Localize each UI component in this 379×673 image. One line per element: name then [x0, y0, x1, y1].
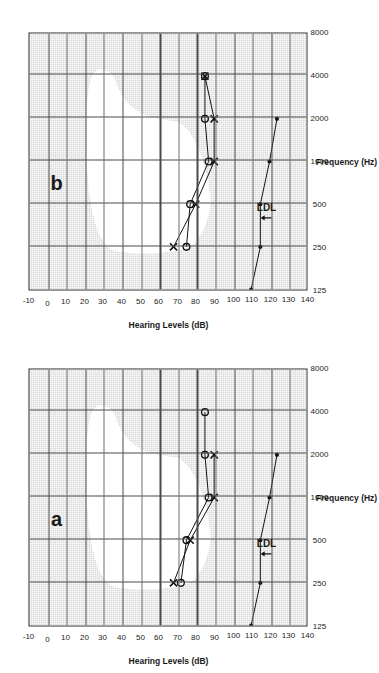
y-axis-title-a: Hearing Levels (dB) [128, 655, 208, 665]
x-tick-label: 8000 [310, 28, 328, 36]
y-tick-label: 50 [135, 298, 144, 306]
y-axis-title-b: Hearing Levels (dB) [128, 319, 208, 329]
gridline-horizontal [234, 33, 235, 289]
y-tick-label: 80 [191, 298, 200, 306]
gridline-vertical [29, 159, 306, 160]
gridline-horizontal [141, 33, 142, 289]
x-tick-label: 2000 [310, 114, 328, 122]
gridline-horizontal [289, 369, 290, 625]
y-tick-label: 90 [210, 634, 219, 642]
gridline-horizontal [196, 369, 197, 625]
y-tick-label: 130 [282, 631, 295, 639]
gridline-horizontal [85, 369, 86, 625]
y-tick-label: 20 [79, 634, 88, 642]
audiogram-figure: a LDL Frequency (Hz) Hearing Levels (dB)… [0, 0, 379, 673]
y-tick-label: 40 [117, 298, 126, 306]
gridline-vertical [29, 409, 306, 410]
gridline-horizontal [215, 33, 216, 289]
plot-overlay-b [29, 33, 306, 289]
gridline-horizontal [234, 369, 235, 625]
x-tick-label: 1000 [310, 493, 328, 501]
y-tick-label: 140 [300, 295, 313, 303]
y-tick-label: 30 [98, 298, 107, 306]
ldl-annotation-a: LDL [256, 537, 275, 548]
x-tick-label: 125 [312, 286, 325, 294]
panel-container: a LDL Frequency (Hz) Hearing Levels (dB)… [0, 0, 379, 673]
gridline-horizontal [103, 369, 104, 625]
y-tick-label: 120 [263, 295, 276, 303]
gridline-horizontal [66, 369, 67, 625]
gridline-horizontal [289, 33, 290, 289]
gridline-horizontal [178, 33, 179, 289]
y-tick-label: 10 [61, 634, 70, 642]
y-tick-label: 130 [282, 295, 295, 303]
gridline-vertical [29, 245, 306, 246]
y-tick-label: 50 [135, 634, 144, 642]
gridline-horizontal [85, 33, 86, 289]
plot-area-b [28, 32, 307, 290]
gridline-horizontal [196, 33, 197, 289]
gridline-horizontal [141, 369, 142, 625]
gridline-horizontal [159, 33, 160, 289]
y-tick-label: 140 [300, 631, 313, 639]
plot-area-a [28, 368, 307, 626]
ldl-arrow-icon [260, 215, 271, 220]
y-tick-label: 60 [154, 634, 163, 642]
x-tick-label: 1000 [310, 157, 328, 165]
y-tick-label: 100 [226, 295, 239, 303]
gridline-horizontal [271, 369, 272, 625]
y-tick-label: 110 [245, 632, 258, 640]
panel-label-b: b [50, 172, 62, 195]
x-tick-label: 125 [312, 622, 325, 630]
gridline-vertical [29, 116, 306, 117]
panel-a: a LDL Frequency (Hz) Hearing Levels (dB)… [0, 337, 379, 673]
y-tick-label: 30 [98, 634, 107, 642]
gridline-horizontal [178, 369, 179, 625]
gridline-horizontal [122, 369, 123, 625]
gridline-horizontal [103, 33, 104, 289]
gridline-horizontal [48, 369, 49, 625]
x-tick-label: 8000 [310, 364, 328, 372]
panel-label-a: a [50, 508, 61, 531]
plot-overlay-a [29, 369, 306, 625]
gridline-horizontal [252, 33, 253, 289]
panel-b: b LDL Frequency (Hz) Hearing Levels (dB)… [0, 1, 379, 337]
gridline-horizontal [271, 33, 272, 289]
y-tick-label: -10 [22, 296, 34, 304]
series-line [180, 412, 208, 583]
x-tick-label: 4000 [310, 71, 328, 79]
x-tick-label: 500 [312, 536, 325, 544]
y-tick-label: 40 [117, 634, 126, 642]
gridline-horizontal [122, 33, 123, 289]
x-tick-label: 500 [312, 200, 325, 208]
gridline-horizontal [66, 33, 67, 289]
gridline-vertical [29, 73, 306, 74]
y-tick-label: 90 [210, 298, 219, 306]
y-tick-label: 10 [61, 298, 70, 306]
gridline-horizontal [215, 369, 216, 625]
gridline-horizontal [252, 369, 253, 625]
y-tick-label: 120 [263, 631, 276, 639]
y-tick-label: 80 [191, 634, 200, 642]
y-tick-label: 0 [44, 636, 48, 644]
y-tick-label: 70 [172, 634, 181, 642]
x-tick-label: 4000 [310, 407, 328, 415]
y-tick-label: 110 [245, 296, 258, 304]
gridline-vertical [29, 495, 306, 496]
y-tick-label: -10 [22, 632, 34, 640]
gridline-horizontal [48, 33, 49, 289]
x-tick-label: 250 [312, 243, 325, 251]
y-tick-label: 70 [172, 298, 181, 306]
gridline-vertical [29, 452, 306, 453]
y-tick-label: 0 [44, 300, 48, 308]
y-tick-label: 60 [154, 298, 163, 306]
gridline-horizontal [159, 369, 160, 625]
ldl-annotation-b: LDL [256, 201, 275, 212]
x-tick-label: 250 [312, 579, 325, 587]
x-tick-label: 2000 [310, 450, 328, 458]
gridline-vertical [29, 581, 306, 582]
y-tick-label: 100 [226, 631, 239, 639]
y-tick-label: 20 [79, 298, 88, 306]
ldl-arrow-icon [260, 551, 271, 556]
